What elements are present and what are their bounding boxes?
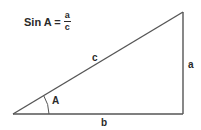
label-angle-a: A xyxy=(52,96,59,106)
angle-a-arc xyxy=(44,96,49,114)
hypotenuse-c xyxy=(13,12,183,114)
label-c: c xyxy=(92,53,98,63)
label-a: a xyxy=(188,60,194,70)
label-b: b xyxy=(101,118,107,128)
sine-diagram: Sin A = a c c a b A xyxy=(0,0,201,130)
triangle-figure xyxy=(0,0,201,130)
